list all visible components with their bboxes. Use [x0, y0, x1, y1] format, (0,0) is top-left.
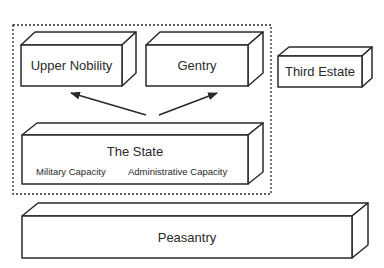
- gentry-label: Gentry: [146, 58, 248, 73]
- state-label: The State: [22, 144, 248, 159]
- arrow-state-to-gentry: [159, 93, 217, 115]
- third-estate-label: Third Estate: [278, 64, 362, 79]
- administrative-capacity-label: Administrative Capacity: [128, 166, 227, 177]
- military-capacity-label: Military Capacity: [36, 166, 106, 177]
- upper-nobility-label: Upper Nobility: [21, 58, 122, 73]
- arrow-state-to-upper-nobility: [71, 93, 146, 115]
- diagram-canvas: [0, 0, 384, 268]
- peasantry-label: Peasantry: [22, 230, 352, 245]
